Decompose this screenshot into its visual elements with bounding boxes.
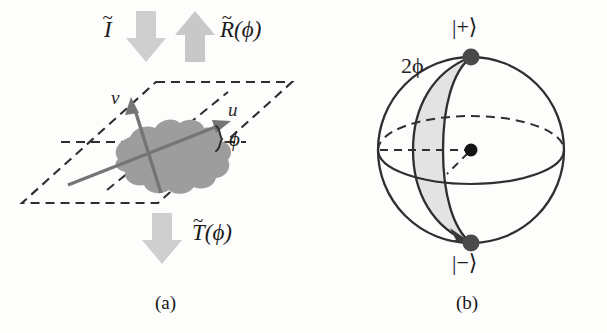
panel-b-caption: (b) <box>456 293 478 312</box>
identity-arrow <box>126 11 166 62</box>
minus-state-dot <box>463 235 480 252</box>
transform-arrow <box>142 213 182 264</box>
plus-state-dot <box>463 49 480 66</box>
state-blob <box>116 120 232 194</box>
rotation-arrow <box>175 11 215 62</box>
panel-a-caption: (a) <box>155 293 176 312</box>
minus-state-label: |−⟩ <box>452 252 477 274</box>
two-phi-label: 2ϕ <box>401 55 424 77</box>
identity-operator-label: ~I <box>104 18 112 41</box>
center-meridian-dashed <box>447 153 468 174</box>
rotation-operator-label: ~R(ϕ) <box>220 18 261 41</box>
transform-operator-label: ~T(ϕ) <box>192 221 232 244</box>
plus-state-label: |+⟩ <box>452 16 477 38</box>
u-axis-label: u <box>228 100 238 119</box>
phi-angle-label: ϕ <box>229 129 240 150</box>
v-axis-label: v <box>111 88 119 107</box>
figure-container: ~I ~R(ϕ) ~T(ϕ) v u ϕ (a) |+⟩ |−⟩ 2ϕ (b) <box>0 0 607 333</box>
figure-vector-layer <box>0 0 607 333</box>
sphere-center-dot <box>465 144 478 157</box>
